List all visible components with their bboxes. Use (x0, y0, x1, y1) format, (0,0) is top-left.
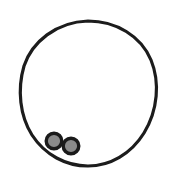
small-circle-right (63, 138, 79, 154)
small-circle-left (46, 133, 62, 149)
canvas-background (0, 0, 174, 174)
drawing-canvas (0, 0, 174, 174)
line-drawing-figure (0, 0, 174, 174)
